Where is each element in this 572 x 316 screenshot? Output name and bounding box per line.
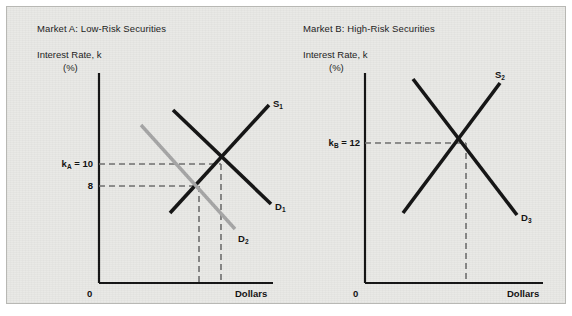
panel-a-x-axis-label: Dollars — [235, 288, 267, 299]
panel-b-origin-label: 0 — [353, 288, 358, 299]
panel-b-demand-curve-d3 — [413, 79, 517, 215]
panel-market-a: Market A: Low-Risk Securities Interest R… — [7, 7, 295, 305]
panel-a-curve-label-s1: S1 — [273, 98, 283, 109]
panel-a-plot — [7, 7, 295, 305]
panel-b-tick-kb-subscript: B — [334, 142, 339, 149]
panel-b-curve-label-s2: S2 — [495, 69, 505, 80]
panel-a-s1-subscript: 1 — [279, 103, 283, 110]
panel-a-origin-label: 0 — [87, 288, 92, 299]
panel-b-d3-letter: D — [521, 212, 528, 223]
panel-a-tick-label-ka: kA = 10 — [23, 158, 93, 169]
panel-a-d1-subscript: 1 — [282, 206, 286, 213]
panel-a-tick-label-8: 8 — [23, 180, 93, 191]
panel-b-s2-subscript: 2 — [501, 74, 505, 81]
panel-a-tick-ka-value: = 10 — [72, 158, 93, 169]
panel-a-d2-letter: D — [238, 233, 245, 244]
panel-b-curve-label-d3: D3 — [521, 212, 532, 223]
panel-b-tick-kb-symbol: kB — [329, 137, 339, 148]
panel-market-b: Market B: High-Risk Securities Interest … — [295, 7, 567, 305]
panel-b-plot — [295, 7, 567, 305]
panel-a-d2-subscript: 2 — [245, 238, 249, 245]
panel-a-curve-label-d1: D1 — [275, 201, 286, 212]
figure-plate: Market A: Low-Risk Securities Interest R… — [6, 6, 566, 304]
panel-a-demand-curve-d1 — [173, 110, 271, 204]
panel-b-tick-label-kb: kB = 12 — [290, 137, 360, 148]
panel-b-x-axis-label: Dollars — [507, 288, 539, 299]
figure-root: Market A: Low-Risk Securities Interest R… — [0, 0, 572, 316]
panel-b-supply-curve-s2 — [403, 83, 500, 213]
panel-a-tick-ka-symbol: kA — [62, 158, 72, 169]
panel-a-tick-ka-subscript: A — [67, 163, 72, 170]
panel-a-d1-letter: D — [275, 201, 282, 212]
panel-b-tick-kb-value: = 12 — [339, 137, 360, 148]
panel-a-curve-label-d2: D2 — [238, 233, 249, 244]
panel-b-d3-subscript: 3 — [528, 217, 532, 224]
